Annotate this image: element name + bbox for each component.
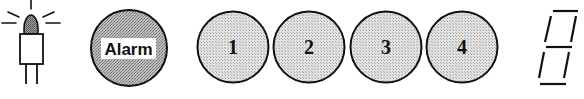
segment-e xyxy=(539,52,544,78)
number-button-2[interactable]: 2 xyxy=(274,12,345,83)
number-button-label: 2 xyxy=(304,36,314,58)
alarm-button[interactable]: Alarm xyxy=(91,10,167,86)
number-button-1[interactable]: 1 xyxy=(198,12,269,83)
segment-c xyxy=(564,52,569,78)
control-panel: Alarm 1 2 3 4 xyxy=(0,0,584,99)
number-button-label: 3 xyxy=(381,36,391,58)
lamp-bulb xyxy=(24,15,38,34)
lamp-body xyxy=(20,34,43,64)
number-button-4[interactable]: 4 xyxy=(427,12,498,83)
number-button-3[interactable]: 3 xyxy=(351,12,422,83)
number-button-label: 4 xyxy=(457,36,467,58)
alarm-label: Alarm xyxy=(104,40,152,59)
segment-f xyxy=(545,16,551,42)
lamp-icon xyxy=(2,0,60,84)
seven-segment-display xyxy=(539,11,578,84)
segment-b xyxy=(571,16,576,42)
number-button-label: 1 xyxy=(228,36,238,58)
